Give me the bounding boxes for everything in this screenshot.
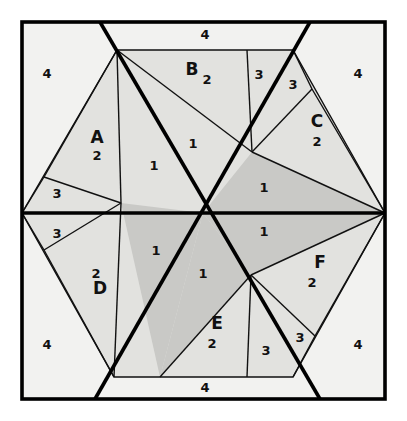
three-bot-right-a: 3	[261, 343, 270, 358]
three-left-lower: 3	[52, 226, 61, 241]
one-right-upper: 1	[259, 180, 268, 195]
corner-top-right: 4	[353, 66, 362, 81]
region-letter-c: C	[311, 111, 323, 131]
three-top-right-a: 3	[254, 67, 263, 82]
dissection-svg: A2B2C2D2E2F2444444111111333333	[0, 0, 407, 421]
one-right-lower: 1	[259, 224, 268, 239]
one-lower-left: 1	[151, 243, 160, 258]
corner-top-left: 4	[42, 66, 51, 81]
region-value-f: 2	[307, 275, 316, 290]
region-value-c: 2	[312, 134, 321, 149]
region-letter-e: E	[211, 313, 223, 333]
region-value-b: 2	[202, 72, 211, 87]
edge-top: 4	[200, 27, 209, 42]
region-value-e: 2	[207, 336, 216, 351]
three-left-upper: 3	[52, 186, 61, 201]
corner-bottom-right: 4	[353, 337, 362, 352]
region-letter-a: A	[90, 127, 104, 147]
three-bot-right-b: 3	[295, 330, 304, 345]
three-top-right-b: 3	[288, 77, 297, 92]
edge-bottom: 4	[200, 380, 209, 395]
region-value-a: 2	[92, 148, 101, 163]
one-lower-mid: 1	[198, 266, 207, 281]
corner-bottom-left: 4	[42, 337, 51, 352]
one-upper-left: 1	[149, 158, 158, 173]
region-letter-d: D	[93, 278, 107, 298]
region-value-d: 2	[91, 266, 100, 281]
diagram-canvas: A2B2C2D2E2F2444444111111333333	[0, 0, 407, 421]
region-letter-f: F	[314, 252, 326, 272]
one-upper-mid: 1	[188, 136, 197, 151]
region-letter-b: B	[186, 59, 199, 79]
